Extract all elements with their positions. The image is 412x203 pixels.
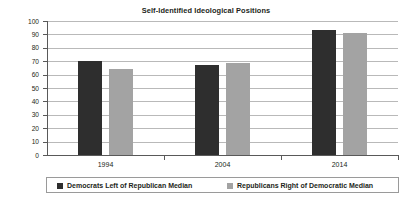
legend-swatch-icon-republicans [227,183,233,189]
y-axis-line [47,21,48,156]
bar-2004-democrats [195,65,219,155]
plot-area [47,21,398,155]
bar-chart-figure: Self-Identified Ideological Positions Pe… [0,0,412,203]
y-axis-tick-label: 50 [0,85,39,92]
x-axis-tick-mark [164,156,165,160]
x-axis-tick-label-2004: 2004 [193,161,253,168]
bar-2004-republicans [226,63,250,155]
legend-label-republicans: Republicans Right of Democratic Median [237,182,373,190]
gridline [47,21,398,22]
y-axis-tick-label: 80 [0,44,39,51]
chart-legend: Democrats Left of Republican Median Repu… [46,177,399,193]
y-axis-tick-label: 0 [0,152,39,159]
bar-1994-republicans [109,69,133,155]
x-axis-tick-label-2014: 2014 [310,161,370,168]
y-axis-tick-label: 10 [0,138,39,145]
legend-entry-republicans: Republicans Right of Democratic Median [227,181,373,191]
y-axis-tick-label: 60 [0,71,39,78]
y-axis-tick-label: 70 [0,58,39,65]
legend-label-democrats: Democrats Left of Republican Median [67,182,192,190]
bar-1994-democrats [78,61,102,155]
x-axis-tick-mark [398,156,399,160]
y-axis-tick-label: 90 [0,31,39,38]
legend-entry-democrats: Democrats Left of Republican Median [57,181,192,191]
x-axis-line [47,155,399,156]
bar-2014-democrats [312,30,336,155]
legend-swatch-icon-democrats [57,183,63,189]
bar-2014-republicans [343,33,367,155]
chart-title: Self-Identified Ideological Positions [0,6,412,15]
y-axis-tick-label: 20 [0,125,39,132]
x-axis-tick-label-1994: 1994 [76,161,136,168]
y-axis-tick-label: 30 [0,111,39,118]
y-axis-tick-label: 40 [0,98,39,105]
y-axis-tick-label: 100 [0,18,39,25]
x-axis-tick-mark [281,156,282,160]
